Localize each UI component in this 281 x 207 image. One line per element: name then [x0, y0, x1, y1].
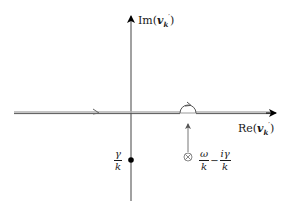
- minus-sign: −: [209, 155, 219, 166]
- re-sub: k: [264, 128, 269, 137]
- contour-diagram-canvas: [0, 0, 281, 207]
- gamma-num: γ: [114, 149, 122, 161]
- omega-num: ω: [199, 149, 209, 161]
- imaginary-axis-label: Im(vk′): [138, 14, 174, 28]
- gamma-dot-marker: [128, 157, 134, 163]
- contour-indent-arc: [180, 102, 196, 113]
- gamma-fraction: γ k: [114, 149, 122, 172]
- igamma-fraction: iγ k: [220, 149, 231, 172]
- contour-path: [14, 112, 272, 114]
- omega-fraction: ω k: [199, 149, 209, 172]
- gamma-den: k: [115, 161, 121, 172]
- pole-label: ω k − iγ k: [199, 149, 231, 172]
- im-prefix: Im(: [138, 14, 157, 27]
- real-axis-label: Re(vk′): [238, 122, 274, 136]
- im-sub: k: [163, 20, 168, 29]
- re-prefix: Re(: [238, 122, 257, 135]
- omega-den: k: [201, 161, 207, 172]
- contour-diagram: Im(vk′) Re(vk′) γ k ω k − iγ k: [0, 0, 281, 207]
- im-suffix: ): [170, 14, 174, 27]
- gamma-over-k-label: γ k: [114, 149, 122, 172]
- igamma-num: iγ: [220, 149, 231, 161]
- pole-marker-icon: [184, 153, 192, 161]
- igamma-den: k: [222, 161, 228, 172]
- re-suffix: ): [270, 122, 274, 135]
